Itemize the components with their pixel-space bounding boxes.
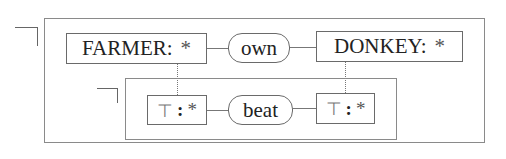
arc xyxy=(290,47,317,48)
relation-label: own xyxy=(241,36,277,61)
colon: : xyxy=(346,98,352,120)
top-type-symbol: ⊤ xyxy=(326,98,342,119)
colon: : xyxy=(177,99,183,121)
concept-type: FARMER: xyxy=(82,36,173,61)
top-type-symbol: ⊤ xyxy=(157,100,173,121)
relation-beat: beat xyxy=(228,95,293,125)
arc xyxy=(293,108,317,109)
relation-label: beat xyxy=(243,98,278,123)
concept-type: DONKEY: xyxy=(334,34,427,59)
inner-negation-mark xyxy=(97,88,118,89)
referent-generic: * xyxy=(187,99,197,121)
arc xyxy=(207,48,229,49)
referent-generic: * xyxy=(435,34,446,59)
outer-negation-mark xyxy=(15,27,38,28)
concept-donkey: DONKEY: * xyxy=(316,31,463,62)
relation-own: own xyxy=(228,33,290,63)
concept-top-2: ⊤ : * xyxy=(316,93,375,124)
referent-generic: * xyxy=(181,36,192,61)
referent-generic: * xyxy=(356,98,366,120)
outer-negation-mark-stem xyxy=(37,27,38,46)
inner-negation-mark-stem xyxy=(117,88,118,103)
arc xyxy=(207,110,229,111)
concept-top-1: ⊤ : * xyxy=(147,95,207,125)
concept-farmer: FARMER: * xyxy=(66,33,207,64)
